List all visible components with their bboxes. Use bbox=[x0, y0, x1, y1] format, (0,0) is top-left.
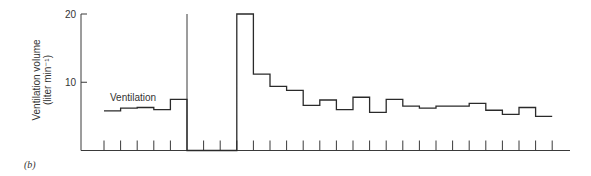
y-axis-label: Ventilation volume (liter min⁻¹) bbox=[31, 39, 53, 121]
y-axis-label-line2: (liter min⁻¹) bbox=[42, 55, 53, 105]
ventilation-series bbox=[104, 14, 552, 151]
ventilation-chart: 1020 Ventilation Ventilation volume (lit… bbox=[0, 0, 591, 176]
axes bbox=[81, 14, 570, 151]
series-label: Ventilation bbox=[110, 92, 156, 103]
y-axis-label-line1: Ventilation volume bbox=[31, 39, 42, 121]
panel-label: (b) bbox=[24, 159, 36, 171]
y-ticks: 1020 bbox=[65, 9, 87, 88]
x-ticks bbox=[104, 141, 552, 151]
y-tick-label-20: 20 bbox=[65, 9, 77, 20]
ventilation-step-line bbox=[104, 14, 552, 151]
y-tick-label-10: 10 bbox=[65, 77, 77, 88]
